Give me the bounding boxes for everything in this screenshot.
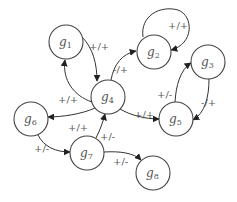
edge-label-g4-g5: +/+	[134, 109, 154, 120]
edge-label-g2-g2: +/+	[168, 20, 188, 31]
node-g4: g4	[91, 80, 125, 114]
edge-label-g1-g4: +/+	[89, 41, 109, 52]
edge-label-g4-g2: -/+	[113, 64, 128, 75]
node-g3: g3	[191, 45, 225, 79]
edge-label-g6-g7: +/-	[34, 143, 49, 154]
node-g6: g6	[14, 102, 48, 136]
edge-g4-g6	[48, 108, 95, 117]
edge-label-g3-g5: -/+	[201, 97, 216, 108]
edge-label-g5-g3: +/-	[157, 89, 172, 100]
edge-label-g4-g6: +/+	[68, 122, 88, 133]
node-g8: g8	[136, 156, 170, 190]
node-g5: g5	[159, 102, 193, 136]
edge-label-g7-g4: +/-	[100, 131, 115, 142]
node-g1: g1	[49, 25, 83, 59]
gene-network-diagram: +/+ +/+ -/+ +/+ +/- -/+ +/+ +/+ +/- +/- …	[0, 0, 237, 202]
edge-label-g7-g8: +/-	[113, 156, 128, 167]
edge-g5-g3	[175, 63, 191, 102]
edge-label-g4-g1: +/+	[58, 94, 78, 105]
node-g2: g2	[137, 35, 171, 69]
node-g7: g7	[70, 136, 104, 170]
